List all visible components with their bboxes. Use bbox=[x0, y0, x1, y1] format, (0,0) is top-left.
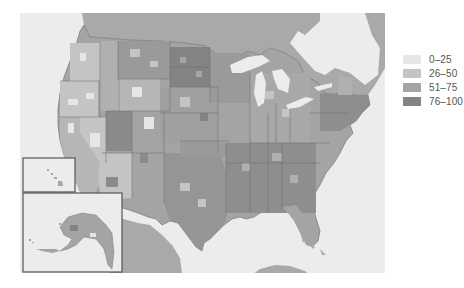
legend: 0–25 26–50 51–75 76–100 bbox=[403, 52, 463, 108]
legend-swatch bbox=[403, 55, 421, 64]
hawaii-inset bbox=[23, 158, 75, 192]
legend-label: 0–25 bbox=[429, 54, 452, 65]
legend-swatch bbox=[403, 83, 421, 92]
alaska-inset bbox=[23, 193, 122, 272]
map-canvas[interactable] bbox=[20, 13, 385, 273]
legend-item-26-50: 26–50 bbox=[403, 66, 463, 80]
legend-label: 76–100 bbox=[429, 96, 463, 107]
legend-label: 51–75 bbox=[429, 82, 457, 93]
legend-item-0-25: 0–25 bbox=[403, 52, 463, 66]
legend-swatch bbox=[403, 97, 421, 106]
legend-item-51-75: 51–75 bbox=[403, 80, 463, 94]
legend-item-76-100: 76–100 bbox=[403, 94, 463, 108]
legend-swatch bbox=[403, 69, 421, 78]
legend-label: 26–50 bbox=[429, 68, 457, 79]
